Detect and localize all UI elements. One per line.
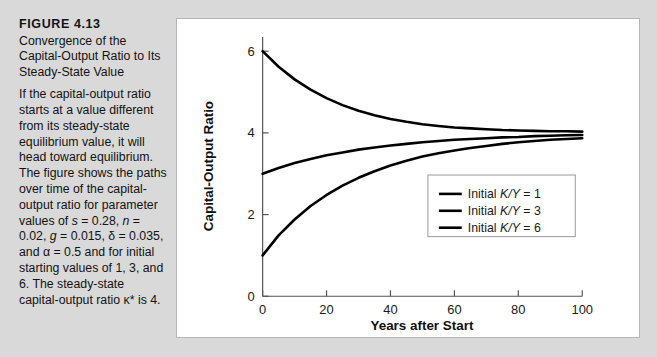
chart-legend[interactable]: Initial K/Y = 1Initial K/Y = 3Initial K/…: [428, 175, 575, 237]
x-tick-label: 80: [511, 302, 525, 317]
y-tick-label: 4: [247, 125, 254, 140]
x-tick-label: 100: [571, 302, 593, 317]
legend-label[interactable]: Initial K/Y = 1: [468, 187, 541, 201]
convergence-line-chart: 0246 020406080100 Capital-Output Ratio Y…: [177, 19, 639, 337]
y-tick-label: 2: [247, 207, 254, 222]
figure-body-text: If the capital-output ratio starts at a …: [19, 87, 167, 308]
x-axis-ticks: 020406080100: [259, 290, 593, 317]
figure-number: FIGURE 4.13: [19, 17, 167, 33]
x-tick-label: 20: [319, 302, 333, 317]
figure-body-run-1: If the capital-output ratio starts at a …: [19, 87, 167, 227]
x-tick-label: 60: [447, 302, 461, 317]
series-line: [263, 51, 583, 131]
x-tick-label: 0: [259, 302, 266, 317]
x-tick-label: 40: [383, 302, 397, 317]
y-axis-title: Capital-Output Ratio: [201, 101, 216, 231]
param-g: g: [50, 229, 57, 243]
y-tick-label: 0: [247, 289, 254, 304]
figure-title: Convergence of the Capital-Output Ratio …: [19, 34, 167, 82]
chart-panel: 0246 020406080100 Capital-Output Ratio Y…: [176, 18, 640, 338]
legend-label[interactable]: Initial K/Y = 6: [468, 221, 541, 235]
legend-label[interactable]: Initial K/Y = 3: [468, 204, 541, 218]
y-tick-label: 6: [247, 44, 254, 59]
figure-container: FIGURE 4.13 Convergence of the Capital-O…: [0, 0, 657, 357]
x-axis-title: Years after Start: [370, 318, 473, 333]
figure-caption: FIGURE 4.13 Convergence of the Capital-O…: [19, 17, 167, 339]
